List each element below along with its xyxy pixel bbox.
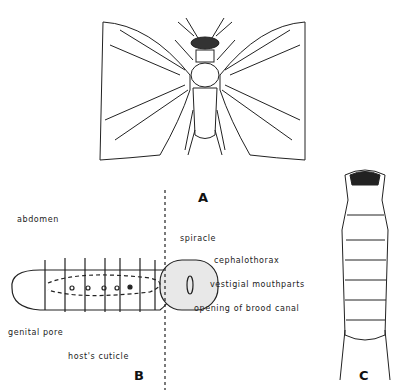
- label-genital-pore: genital pore: [8, 328, 63, 337]
- panel-label-b: B: [134, 368, 144, 383]
- panel-label-c: C: [359, 368, 369, 383]
- label-brood-canal: opening of brood canal: [194, 304, 299, 313]
- label-cephalothorax: cephalothorax: [214, 256, 279, 265]
- label-vestigial-mouthparts: vestigial mouthparts: [210, 280, 305, 289]
- larva-drawing: [340, 170, 390, 380]
- insect-adult-drawing: [100, 18, 305, 160]
- panel-label-a: A: [198, 190, 208, 205]
- label-spiracle: spiracle: [180, 234, 216, 243]
- label-hosts-cuticle: host's cuticle: [68, 352, 129, 361]
- label-abdomen: abdomen: [17, 215, 59, 224]
